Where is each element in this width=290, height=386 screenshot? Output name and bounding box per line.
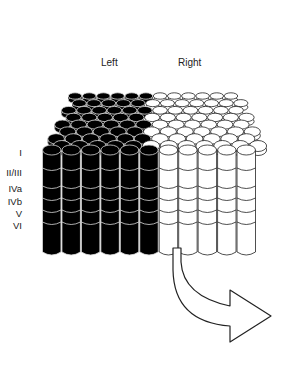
- curved-arrow-icon: [0, 0, 290, 386]
